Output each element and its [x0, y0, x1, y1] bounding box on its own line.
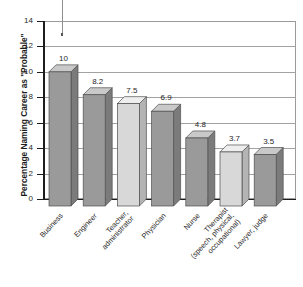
- bar-side-face: [71, 65, 78, 206]
- bar-value-label: 7.5: [117, 86, 147, 95]
- y-tick-label: 2: [11, 169, 33, 178]
- bar[interactable]: [152, 104, 181, 206]
- y-tick-mark: [37, 97, 43, 98]
- bar[interactable]: [83, 88, 112, 206]
- bar[interactable]: [254, 148, 283, 207]
- category-label: Teacher,administrator: [95, 209, 136, 252]
- y-tick-mark: [37, 199, 43, 200]
- bar-value-label: 4.8: [185, 120, 215, 129]
- y-tick-label: 10: [11, 67, 33, 76]
- bar-front-face: [254, 155, 276, 207]
- y-tick-label: 12: [11, 41, 33, 50]
- scan-artifact-line: [62, 0, 63, 35]
- scan-artifact-dot: [61, 33, 63, 36]
- bar-value-label: 3.7: [220, 134, 250, 143]
- bar-value-label: 8.2: [83, 77, 113, 86]
- bar-front-face: [152, 111, 174, 206]
- bar[interactable]: [220, 145, 249, 206]
- y-tick-label: 6: [11, 118, 33, 127]
- y-axis-line: [43, 21, 45, 199]
- y-tick-mark: [37, 21, 43, 22]
- category-label: Physician: [140, 212, 168, 241]
- category-label: Business: [39, 212, 66, 240]
- y-tick-mark: [37, 46, 43, 47]
- y-tick-label: 14: [11, 16, 33, 25]
- y-tick-mark: [37, 174, 43, 175]
- bar[interactable]: [186, 131, 215, 206]
- bar-side-face: [174, 104, 181, 206]
- y-tick-label: 0: [11, 194, 33, 203]
- bar-value-label: 10: [49, 54, 79, 63]
- gridline: [43, 46, 296, 47]
- bar-front-face: [117, 104, 139, 206]
- y-tick-label: 4: [11, 143, 33, 152]
- bar-front-face: [186, 138, 208, 206]
- bar-side-face: [208, 131, 215, 206]
- bar-side-face: [139, 97, 146, 206]
- bar[interactable]: [49, 65, 78, 206]
- category-label: Engineer: [73, 212, 99, 239]
- category-label: Lawyer, judge: [233, 212, 270, 251]
- bar-side-face: [242, 145, 249, 206]
- category-label: Nurse: [182, 212, 202, 232]
- bar[interactable]: [117, 97, 146, 206]
- bar-front-face: [49, 72, 71, 206]
- bar-front-face: [220, 152, 242, 206]
- bar-value-label: 6.9: [151, 93, 181, 102]
- gridline: [43, 72, 296, 73]
- y-tick-label: 8: [11, 92, 33, 101]
- bar-value-label: 3.5: [254, 137, 284, 146]
- bar-side-face: [105, 88, 112, 206]
- bar-front-face: [83, 95, 105, 206]
- y-tick-mark: [37, 148, 43, 149]
- y-tick-mark: [37, 72, 43, 73]
- bar-chart: Percentage Naming Career as "Probable" 0…: [0, 0, 303, 287]
- bar-side-face: [276, 148, 283, 207]
- y-tick-mark: [37, 123, 43, 124]
